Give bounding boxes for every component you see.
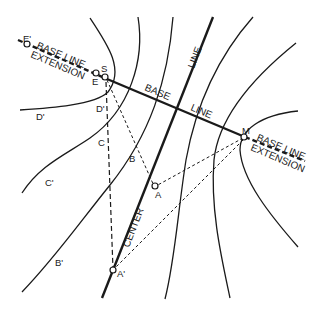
label-center-line: LINE: [186, 45, 204, 70]
label-point-b: B: [129, 153, 135, 164]
point-a-prime-marker: [110, 267, 116, 273]
dashed-s-to-a-prime: [106, 82, 113, 269]
label-point-a-prime: A': [117, 268, 125, 279]
hyperbolic-navigation-diagram: BASE LINE EXTENSION BASE LINE BASE LINE …: [0, 0, 327, 311]
label-point-c-prime: C': [45, 177, 54, 188]
label-point-e-prime: E': [23, 33, 31, 44]
label-point-d-prime: D': [36, 111, 45, 122]
label-point-b-prime: B': [55, 257, 63, 268]
label-point-a: A: [155, 189, 162, 200]
label-point-e: E: [92, 76, 98, 87]
label-point-m: M: [242, 125, 250, 136]
label-point-c: C: [98, 137, 105, 148]
label-point-d: D': [96, 103, 105, 114]
hyperbola-r1: [165, 17, 253, 299]
label-center: CENTER: [121, 206, 146, 248]
hyperbola-r2: [213, 43, 296, 298]
label-point-s: S: [101, 63, 107, 74]
point-s-marker: [102, 74, 108, 80]
dashed-m-to-a: [156, 138, 243, 186]
